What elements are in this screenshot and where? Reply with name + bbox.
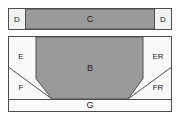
zone-label-fr: FR bbox=[153, 83, 164, 92]
diagram-root: D C D E ER F FR B G bbox=[0, 0, 179, 120]
upper-band-panel: D C D bbox=[9, 9, 172, 30]
zone-label-g: G bbox=[86, 100, 93, 110]
zone-label-d-right: D bbox=[160, 15, 166, 24]
zone-label-d-left: D bbox=[14, 15, 20, 24]
zone-diagram: D C D E ER F FR B G bbox=[0, 0, 179, 120]
zone-label-b: B bbox=[87, 63, 93, 73]
zone-label-e: E bbox=[18, 52, 23, 61]
lower-section-panel: E ER F FR B G bbox=[9, 37, 172, 112]
zone-label-f: F bbox=[19, 83, 24, 92]
zone-label-c: C bbox=[87, 14, 94, 24]
zone-label-er: ER bbox=[152, 52, 163, 61]
